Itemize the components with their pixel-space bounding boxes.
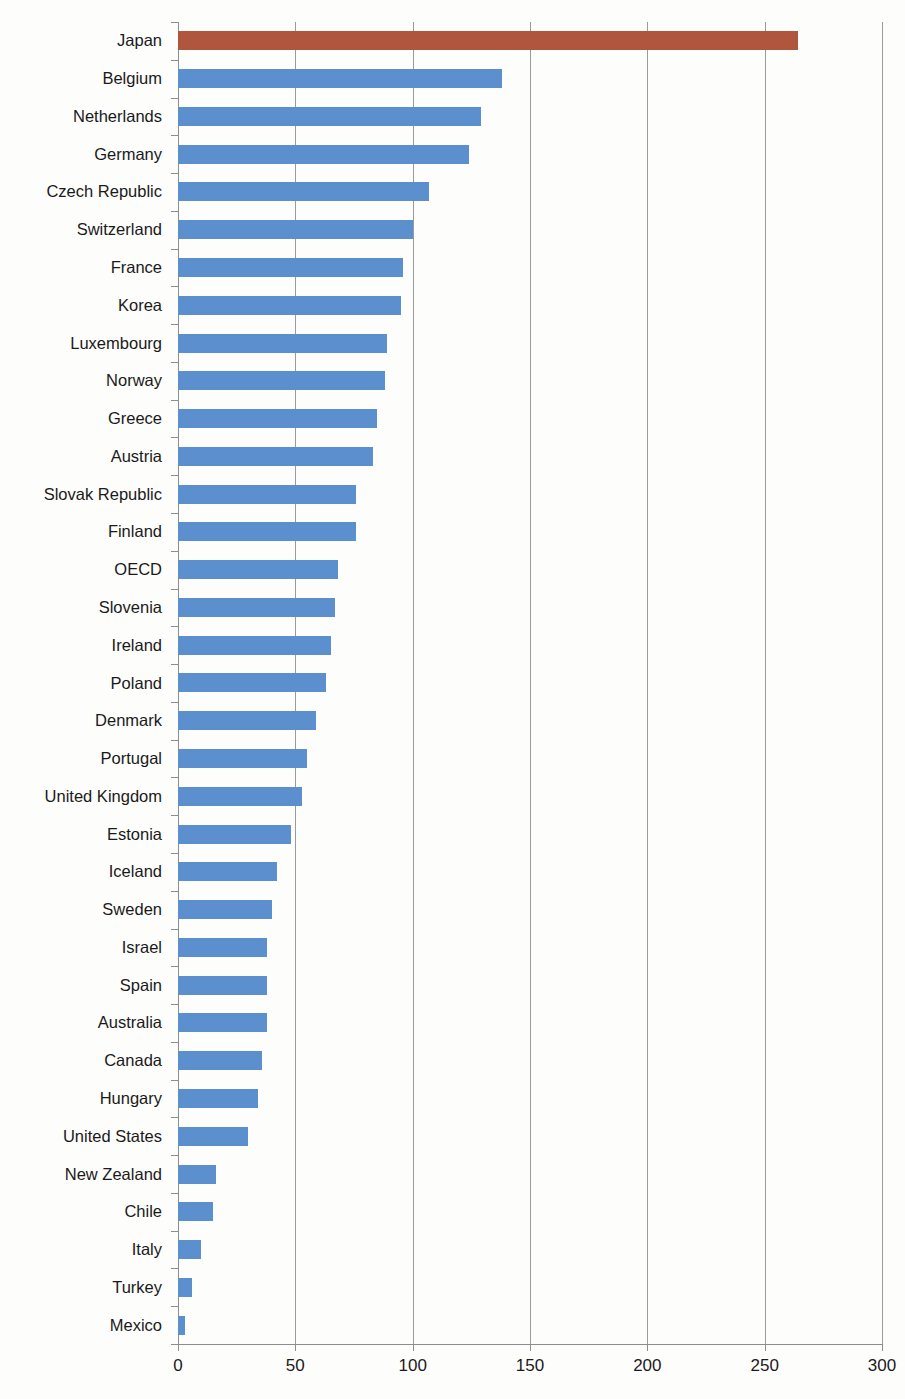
y-axis-tick	[171, 853, 178, 854]
y-axis-tick	[171, 626, 178, 627]
bar-poland[interactable]	[178, 673, 326, 692]
y-axis-tick	[171, 966, 178, 967]
x-axis-tick-300	[882, 1344, 883, 1351]
bar-denmark[interactable]	[178, 711, 316, 730]
bar-finland[interactable]	[178, 522, 356, 541]
y-axis-label-luxembourg: Luxembourg	[0, 334, 170, 353]
bar-united-states[interactable]	[178, 1127, 248, 1146]
x-axis-tick-label-150: 150	[516, 1356, 544, 1376]
bar-row	[178, 60, 882, 98]
bar-row	[178, 1306, 882, 1344]
y-axis-tick	[171, 1155, 178, 1156]
bar-row	[178, 22, 882, 60]
y-axis-label-germany: Germany	[0, 145, 170, 164]
bar-australia[interactable]	[178, 1013, 267, 1032]
bar-row	[178, 211, 882, 249]
bar-spain[interactable]	[178, 976, 267, 995]
y-axis-tick	[171, 929, 178, 930]
bar-slovak-republic[interactable]	[178, 485, 356, 504]
bar-row	[178, 1080, 882, 1118]
y-axis-label-oecd: OECD	[0, 560, 170, 579]
y-axis-label-estonia: Estonia	[0, 825, 170, 844]
bar-row	[178, 1193, 882, 1231]
bar-japan[interactable]	[178, 31, 798, 50]
bar-czech-republic[interactable]	[178, 182, 429, 201]
bar-chile[interactable]	[178, 1202, 213, 1221]
bar-netherlands[interactable]	[178, 107, 481, 126]
y-axis-tick	[171, 777, 178, 778]
y-axis-label-portugal: Portugal	[0, 749, 170, 768]
bar-luxembourg[interactable]	[178, 334, 387, 353]
bar-row	[178, 437, 882, 475]
y-axis-tick	[171, 437, 178, 438]
y-axis-label-france: France	[0, 258, 170, 277]
bar-france[interactable]	[178, 258, 403, 277]
y-axis-label-turkey: Turkey	[0, 1278, 170, 1297]
y-axis-label-austria: Austria	[0, 447, 170, 466]
y-axis-tick	[171, 362, 178, 363]
bar-row	[178, 664, 882, 702]
bar-row	[178, 1155, 882, 1193]
bar-korea[interactable]	[178, 296, 401, 315]
bar-ireland[interactable]	[178, 636, 331, 655]
bar-mexico[interactable]	[178, 1316, 185, 1335]
gridline-300	[882, 22, 883, 1344]
bar-norway[interactable]	[178, 371, 385, 390]
bar-row	[178, 1004, 882, 1042]
bar-slovenia[interactable]	[178, 598, 335, 617]
bar-united-kingdom[interactable]	[178, 787, 302, 806]
y-axis-tick	[171, 1231, 178, 1232]
y-axis-tick	[171, 475, 178, 476]
y-axis-label-hungary: Hungary	[0, 1089, 170, 1108]
y-axis-label-slovenia: Slovenia	[0, 598, 170, 617]
bar-turkey[interactable]	[178, 1278, 192, 1297]
y-axis-label-israel: Israel	[0, 938, 170, 957]
x-axis-tick-250	[765, 1344, 766, 1351]
bar-hungary[interactable]	[178, 1089, 258, 1108]
bar-estonia[interactable]	[178, 825, 291, 844]
x-axis-tick-label-0: 0	[173, 1356, 182, 1376]
y-axis-tick	[171, 1306, 178, 1307]
bar-canada[interactable]	[178, 1051, 262, 1070]
y-axis-tick	[171, 135, 178, 136]
bar-row	[178, 929, 882, 967]
bar-austria[interactable]	[178, 447, 373, 466]
bar-italy[interactable]	[178, 1240, 201, 1259]
bar-portugal[interactable]	[178, 749, 307, 768]
bar-row	[178, 891, 882, 929]
y-axis-tick	[171, 1193, 178, 1194]
y-axis-tick	[171, 98, 178, 99]
y-axis-tick	[171, 551, 178, 552]
y-axis-label-united-states: United States	[0, 1127, 170, 1146]
y-axis-label-united-kingdom: United Kingdom	[0, 787, 170, 806]
bar-greece[interactable]	[178, 409, 377, 428]
bar-oecd[interactable]	[178, 560, 338, 579]
bar-belgium[interactable]	[178, 69, 502, 88]
bar-new-zealand[interactable]	[178, 1165, 216, 1184]
bar-row	[178, 98, 882, 136]
y-axis-tick	[171, 173, 178, 174]
bar-row	[178, 324, 882, 362]
bar-row	[178, 966, 882, 1004]
bar-row	[178, 551, 882, 589]
x-axis-tick-label-300: 300	[868, 1356, 896, 1376]
bar-germany[interactable]	[178, 145, 469, 164]
y-axis-category-labels: JapanBelgiumNetherlandsGermanyCzech Repu…	[0, 22, 170, 1344]
bar-row	[178, 286, 882, 324]
x-axis-tick-label-250: 250	[750, 1356, 778, 1376]
bar-row	[178, 135, 882, 173]
bar-israel[interactable]	[178, 938, 267, 957]
bar-switzerland[interactable]	[178, 220, 413, 239]
bar-row	[178, 400, 882, 438]
bar-row	[178, 1042, 882, 1080]
y-axis-label-new-zealand: New Zealand	[0, 1165, 170, 1184]
bar-row	[178, 815, 882, 853]
bar-sweden[interactable]	[178, 900, 272, 919]
bar-iceland[interactable]	[178, 862, 277, 881]
y-axis-label-finland: Finland	[0, 522, 170, 541]
plot-area	[178, 22, 882, 1344]
x-axis-tick-100	[413, 1344, 414, 1351]
bar-row	[178, 173, 882, 211]
y-axis-label-czech-republic: Czech Republic	[0, 182, 170, 201]
bar-row	[178, 513, 882, 551]
